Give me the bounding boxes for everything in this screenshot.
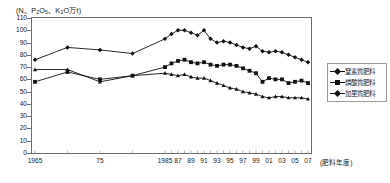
data-point [234, 43, 239, 48]
data-point [261, 80, 265, 84]
data-point [221, 39, 226, 44]
series-2 [33, 58, 310, 85]
data-point [267, 50, 272, 55]
legend-item[interactable]: 加里質肥料 [330, 88, 386, 99]
data-point [65, 45, 70, 50]
data-point [189, 60, 193, 64]
x-axis-tick-label: 01 [265, 157, 272, 164]
legend-item[interactable]: 窒素質肥料 [330, 66, 386, 77]
data-point [287, 81, 291, 85]
data-point [176, 28, 181, 33]
legend-item-label: 窒素質肥料 [345, 67, 375, 76]
data-point [196, 62, 200, 66]
x-axis-tick-label: 1985 [158, 157, 173, 164]
plot-area [31, 17, 312, 154]
data-point [170, 62, 174, 66]
data-point [182, 28, 187, 33]
x-axis-tick-label: 95 [226, 157, 233, 164]
x-axis-tick-label: 05 [291, 157, 298, 164]
data-point [248, 69, 252, 73]
x-axis-tick-label: 93 [213, 157, 220, 164]
legend-marker-diamond-icon [330, 67, 345, 76]
series-3 [33, 67, 310, 100]
x-axis-tick-label: 03 [278, 157, 285, 164]
x-axis-tick-label: 07 [304, 157, 311, 164]
legend-marker-square-icon [330, 78, 345, 87]
chart-legend: 窒素質肥料 燐酸質肥料 加里質肥料 [327, 63, 387, 102]
y-axis-tick-label: 20 [20, 125, 27, 132]
data-point [215, 64, 219, 68]
data-point [183, 72, 187, 76]
data-point [209, 63, 213, 67]
data-point [293, 55, 298, 60]
y-axis-tick-label: 90 [20, 39, 27, 46]
x-axis: 19657519858789919395979901030507 [31, 155, 312, 169]
data-point [280, 50, 285, 55]
data-point [299, 57, 304, 62]
y-axis-tick-label: 80 [20, 52, 27, 59]
data-point [228, 40, 233, 45]
y-axis-tick-label: 30 [20, 113, 27, 120]
data-point [254, 71, 258, 75]
data-point [33, 57, 38, 62]
legend-marker-diamond-icon [330, 89, 345, 98]
y-axis-tick-label: 50 [20, 88, 27, 95]
x-axis-tick-label: 75 [96, 157, 103, 164]
data-point [267, 76, 271, 80]
data-point [183, 58, 187, 62]
x-axis-tick-label: 97 [239, 157, 246, 164]
series-1 [33, 28, 311, 64]
data-point [163, 65, 167, 69]
y-axis-tick-label: 10 [20, 137, 27, 144]
data-point [286, 53, 291, 58]
legend-item-label: 燐酸質肥料 [345, 78, 375, 87]
data-point [130, 51, 135, 56]
y-axis-tick-label: 100 [16, 27, 27, 34]
data-point [202, 60, 206, 64]
data-point [247, 46, 252, 51]
data-point [241, 66, 245, 70]
x-axis-tick-label: 91 [200, 157, 207, 164]
legend-item[interactable]: 燐酸質肥料 [330, 77, 386, 88]
x-axis-tick-label: 99 [252, 157, 259, 164]
series-layer [32, 18, 311, 153]
data-point [280, 77, 284, 81]
y-axis-tick-label: 40 [20, 101, 27, 108]
data-point [273, 49, 278, 54]
legend-item-label: 加里質肥料 [345, 89, 375, 98]
data-point [189, 30, 194, 35]
data-point [176, 59, 180, 63]
y-axis-tick-label: 110 [16, 15, 27, 22]
x-axis-caption: (肥料年度) [320, 157, 352, 167]
data-point [228, 63, 232, 67]
data-point [98, 48, 103, 53]
data-point [293, 80, 297, 84]
data-point [274, 77, 278, 81]
data-point [235, 64, 239, 68]
data-point [222, 63, 226, 67]
data-point [241, 45, 246, 50]
x-axis-tick-label: 89 [187, 157, 194, 164]
data-point [306, 60, 311, 65]
y-axis: 0102030405060708090100110 [0, 17, 30, 154]
y-axis-tick-label: 70 [20, 64, 27, 71]
x-axis-tick-label: 1965 [28, 157, 43, 164]
data-point [306, 81, 310, 85]
data-point [300, 79, 304, 83]
y-axis-tick-label: 60 [20, 76, 27, 83]
data-point [215, 40, 220, 45]
chart-root: (N、P2O5、K2O万t) 0102030405060708090100110… [0, 0, 390, 183]
x-axis-tick-label: 87 [174, 157, 181, 164]
data-point [33, 80, 37, 84]
